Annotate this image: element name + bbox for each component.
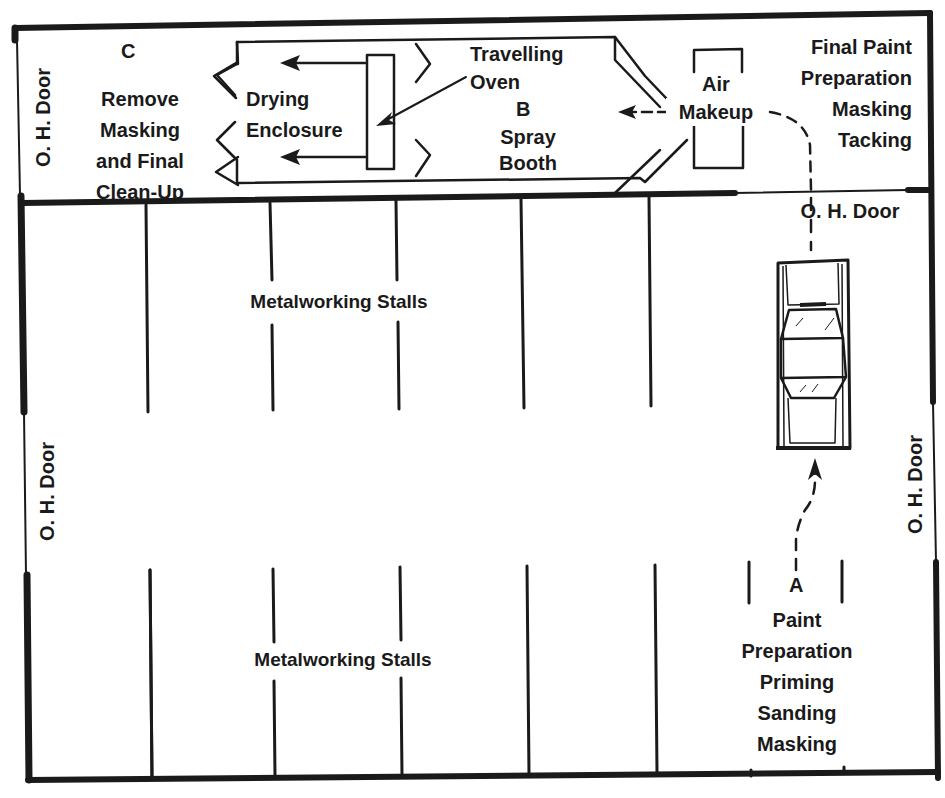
drying-line-2: Enclosure [246, 115, 366, 146]
spray-line-2: Booth [478, 150, 578, 176]
top-wall [15, 13, 930, 28]
left-wall-upper [21, 196, 24, 412]
top-left-door-label: O. H. Door [32, 63, 55, 173]
car-top-view-icon [776, 260, 851, 448]
right-wall-upper [930, 13, 933, 402]
area-b-letter: B [516, 98, 530, 121]
final-prep-line-4: Tacking [770, 125, 912, 156]
area-c-line-2: Masking [85, 115, 195, 146]
area-a-line-4: Sanding [722, 698, 872, 729]
right-wall-lower [936, 562, 938, 778]
area-c-label: Remove Masking and Final Clean-Up [85, 84, 195, 208]
area-a-line-2: Preparation [722, 636, 872, 667]
final-prep-label: Final Paint Preparation Masking Tacking [770, 32, 912, 156]
area-a-line-5: Masking [722, 729, 872, 760]
right-middle-door-label: O. H. Door [904, 430, 927, 540]
area-c-letter: C [121, 40, 135, 63]
spray-line-1: Spray [478, 124, 578, 150]
area-a-label: Paint Preparation Priming Sanding Maskin… [722, 605, 872, 760]
air-makeup-line-1: Air [666, 70, 766, 98]
area-c-line-4: Clean-Up [85, 177, 195, 208]
drying-line-1: Drying [246, 84, 366, 115]
drying-enclosure-label: Drying Enclosure [246, 84, 366, 146]
left-door-top-opening [17, 40, 20, 195]
spray-booth-label: Spray Booth [478, 124, 578, 176]
oven-line-2: Oven [470, 68, 580, 96]
area-c-line-3: and Final [85, 146, 195, 177]
stalls-bottom-label: Metalworking Stalls [228, 644, 458, 675]
right-door-opening [933, 402, 936, 562]
final-prep-line-1: Final Paint [770, 32, 912, 63]
divider-door-opening [735, 190, 908, 193]
air-makeup-line-2: Makeup [666, 98, 766, 126]
air-makeup-label: Air Makeup [666, 70, 766, 126]
left-middle-door-label: O. H. Door [36, 437, 59, 547]
left-door-mid-opening [24, 412, 26, 575]
travelling-oven-label: Travelling Oven [470, 40, 580, 96]
stalls-top-label: Metalworking Stalls [224, 286, 454, 317]
travelling-oven-rect [367, 55, 394, 169]
divider-door-label: O. H. Door [790, 196, 910, 227]
area-a-letter: A [789, 574, 803, 597]
final-prep-line-3: Masking [770, 94, 912, 125]
area-c-line-1: Remove [85, 84, 195, 115]
area-a-line-3: Priming [722, 667, 872, 698]
bottom-wall [28, 772, 938, 780]
oven-line-1: Travelling [470, 40, 580, 68]
arrowhead-car-entry [808, 458, 822, 480]
area-a-line-1: Paint [722, 605, 872, 636]
left-wall-lower [27, 575, 29, 780]
final-prep-line-2: Preparation [770, 63, 912, 94]
